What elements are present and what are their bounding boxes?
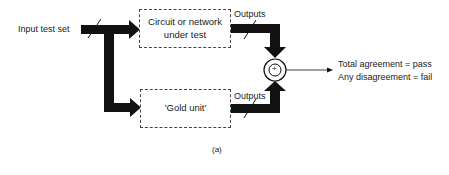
figure-caption: (a) — [212, 146, 222, 154]
gold-unit-box: 'Gold unit' — [140, 89, 231, 128]
comparator-symbol: + — [272, 65, 277, 73]
top-box-line1: Circuit or network — [148, 16, 222, 28]
result-pass: Total agreement = pass — [338, 58, 432, 71]
input-label: Input test set — [18, 25, 70, 34]
top-box-line2: under test — [148, 29, 222, 41]
circuit-under-test-box: Circuit or network under test — [139, 9, 231, 48]
result-text: Total agreement = pass Any disagreement … — [338, 58, 432, 84]
gold-unit-label: 'Gold unit' — [165, 102, 207, 114]
top-outputs-label: Outputs — [234, 10, 266, 19]
bottom-outputs-label: Outputs — [234, 92, 266, 101]
result-fail: Any disagreement = fail — [338, 71, 432, 84]
